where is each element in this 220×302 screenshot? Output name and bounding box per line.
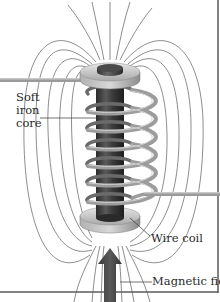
- soft-iron-core: [96, 72, 124, 222]
- magnetic-field-label: Magnetic field: [152, 275, 220, 288]
- electromagnet-diagram: Soft iron core Wire coil Magnetic field: [0, 0, 220, 302]
- lead-wire-bottom: [144, 192, 220, 196]
- top-disc: [80, 63, 140, 89]
- soft-iron-core-label: Soft iron core: [16, 91, 56, 130]
- wire-coil-label: Wire coil: [151, 232, 203, 245]
- lead-wire-top: [0, 78, 84, 82]
- diagram-canvas: [0, 0, 220, 302]
- soft-iron-core-label-line3: core: [16, 117, 56, 130]
